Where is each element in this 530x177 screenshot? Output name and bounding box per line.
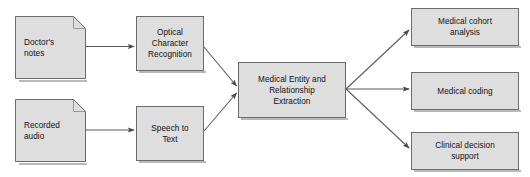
node-shadow <box>19 163 87 165</box>
node-shadow <box>139 71 206 73</box>
edge-extraction-to-decision <box>346 89 409 148</box>
node-label: Medical Entity and Relationship Extracti… <box>255 74 329 107</box>
node-label: Optical Character Recognition <box>145 27 195 60</box>
edge-stt-to-extraction <box>204 93 237 131</box>
node-shadow <box>241 118 348 120</box>
node-medical-entity-and-relationship-extraction[interactable]: Medical Entity and Relationship Extracti… <box>238 62 346 118</box>
node-shadow <box>19 80 87 82</box>
node-label: Medical cohort analysis <box>435 16 495 38</box>
edge-extraction-to-cohort <box>346 30 409 89</box>
edge-ocr-to-extraction <box>204 47 237 86</box>
node-shadow <box>414 46 521 48</box>
node-recorded-audio[interactable]: Recorded audio <box>15 99 86 162</box>
node-doctors-notes[interactable]: Doctor's notes <box>15 16 86 79</box>
node-label: Doctor's notes <box>15 37 57 59</box>
flowchart-canvas: Doctor's notes Recorded audio Optical Ch… <box>0 0 530 177</box>
node-medical-cohort-analysis[interactable]: Medical cohort analysis <box>411 8 519 46</box>
node-medical-coding[interactable]: Medical coding <box>411 72 519 110</box>
node-speech-to-text[interactable]: Speech to Text <box>136 106 204 161</box>
node-label: Recorded audio <box>15 120 63 142</box>
node-label: Clinical decision support <box>432 140 498 162</box>
node-label: Speech to Text <box>148 123 191 145</box>
node-label: Medical coding <box>434 86 495 97</box>
node-clinical-decision-support[interactable]: Clinical decision support <box>411 132 519 170</box>
node-shadow <box>414 170 521 172</box>
node-shadow <box>139 161 206 163</box>
node-optical-character-recognition[interactable]: Optical Character Recognition <box>136 16 204 71</box>
node-shadow <box>414 110 521 112</box>
